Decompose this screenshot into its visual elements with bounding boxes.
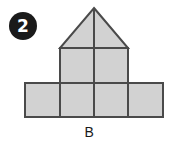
figure-caption: B [0, 124, 175, 140]
figure-caption-text: B [81, 124, 95, 140]
figure-container: 2 B [0, 0, 175, 146]
